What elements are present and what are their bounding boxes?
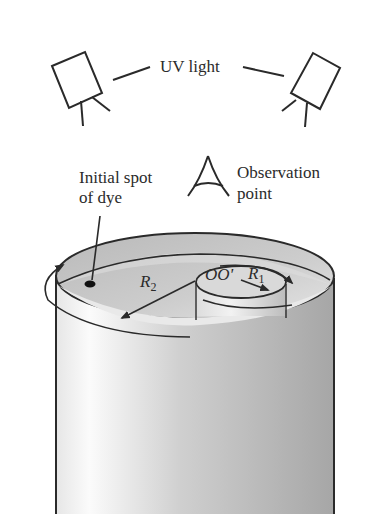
outer-cylinder [56,233,334,514]
diagram-canvas [0,0,381,514]
observation-label-line1: Observation [237,163,320,182]
uv-leader-left [113,67,150,80]
uv-light-label: UV light [160,57,220,76]
initial-spot-label-line2: of dye [79,188,122,207]
inner-radius-subscript: 1 [258,272,264,286]
uv-lamp-right-icon [282,53,340,127]
outer-radius-subscript: 2 [150,280,156,294]
dye-spot [85,281,96,288]
axis-label: OO' [205,265,233,284]
inner-radius-label: R1 [248,264,264,289]
uv-leader-right [243,67,284,76]
initial-spot-label-line1: Initial spot [79,168,152,187]
outer-radius-label: R2 [140,272,156,297]
outer-radius-symbol: R [140,272,150,291]
inner-radius-symbol: R [248,264,258,283]
observation-eye-icon [188,156,229,196]
observation-label-line2: point [237,184,272,203]
uv-lamp-left-icon [52,52,110,126]
